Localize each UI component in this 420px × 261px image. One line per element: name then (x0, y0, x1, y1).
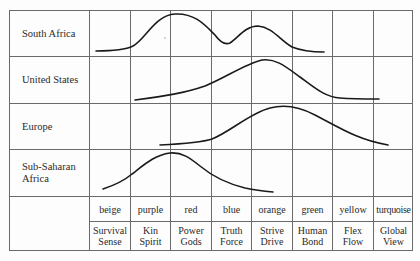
code-cell: FlexFlow (333, 222, 373, 250)
code-line: Flow (343, 236, 364, 247)
code-line: Survival (93, 225, 127, 236)
code-line: Truth (221, 225, 243, 236)
code-line: Flex (344, 225, 362, 236)
color-cell-blue: blue (212, 197, 251, 221)
code-cell: KinSpirit (131, 222, 170, 250)
code-line: Force (220, 236, 243, 247)
code-line: Drive (261, 236, 284, 247)
code-cell: PowerGods (171, 222, 211, 250)
code-line: Sense (98, 236, 121, 247)
curve-europe (160, 106, 388, 145)
code-line: Spirit (139, 236, 161, 247)
row-label-europe: Europe (22, 121, 52, 133)
row-label-line: Sub-Saharan (22, 161, 76, 173)
color-cell-yellow: yellow (333, 197, 373, 221)
code-line: Strive (260, 225, 284, 236)
code-line: Kin (143, 225, 158, 236)
color-cell-turquoise: turquoise (374, 197, 413, 221)
code-line: View (383, 236, 404, 247)
code-cell: TruthForce (212, 222, 251, 250)
code-line: Bond (302, 236, 324, 247)
code-line: Global (380, 225, 407, 236)
color-cell-beige: beige (90, 197, 130, 221)
code-cell: GlobalView (374, 222, 413, 250)
row-label-united-states: United States (22, 74, 78, 86)
code-cell: StriveDrive (252, 222, 292, 250)
code-line: Gods (180, 236, 201, 247)
row-label-line: Africa (22, 173, 76, 185)
color-cell-orange: orange (252, 197, 292, 221)
curve-united-states (135, 60, 379, 100)
curve-sub-saharan-africa (103, 153, 273, 192)
row-label-sub-saharan-africa: Sub-Saharan Africa (22, 161, 76, 185)
speck (164, 37, 165, 38)
code-cell: SurvivalSense (90, 222, 130, 250)
color-cell-green: green (293, 197, 332, 221)
code-line: Human (298, 225, 327, 236)
code-line: Power (178, 225, 204, 236)
color-cell-purple: purple (131, 197, 170, 221)
row-label-south-africa: South Africa (22, 28, 75, 40)
code-cell: HumanBond (293, 222, 332, 250)
color-cell-red: red (171, 197, 211, 221)
